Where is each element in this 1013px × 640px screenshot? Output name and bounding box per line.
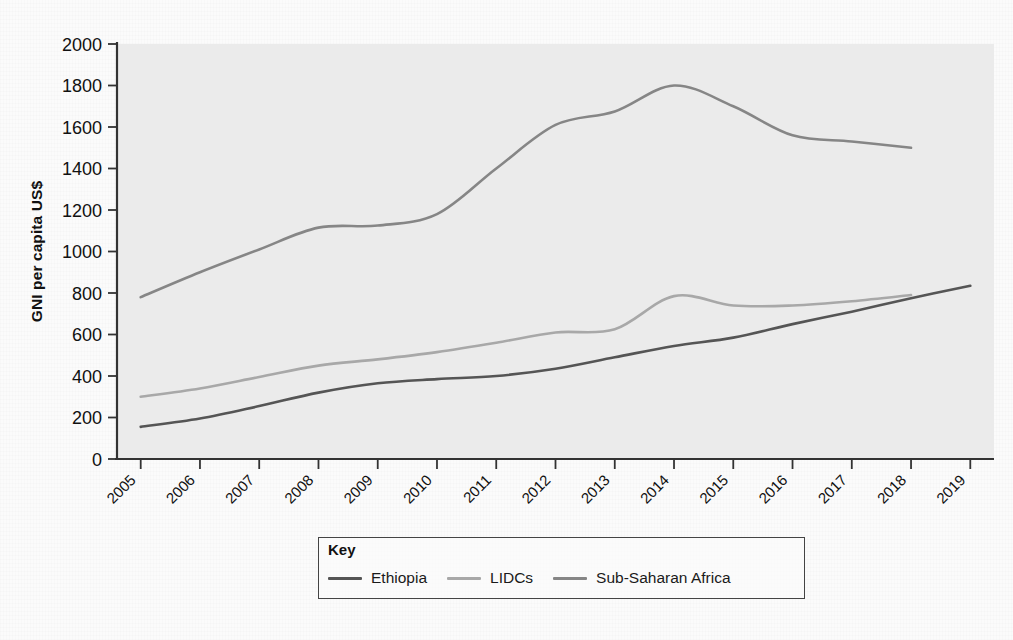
x-tick-label: 2018 — [874, 471, 910, 507]
x-tick-label: 2007 — [222, 471, 258, 507]
x-tick-label: 2008 — [281, 471, 317, 507]
plot-background — [117, 44, 994, 459]
x-tick-label: 2015 — [696, 471, 732, 507]
legend-swatch-line-icon — [447, 577, 481, 580]
legend-label: LIDCs — [490, 569, 533, 587]
x-tick-label: 2009 — [340, 471, 376, 507]
x-tick-label: 2016 — [755, 471, 791, 507]
legend-item-lidcs: LIDCs — [447, 569, 533, 587]
legend-item-ethiopia: Ethiopia — [328, 569, 427, 587]
x-tick-label: 2005 — [103, 471, 139, 507]
x-tick-label: 2019 — [933, 471, 969, 507]
legend-item-sub-saharan-africa: Sub-Saharan Africa — [553, 569, 730, 587]
x-tick-label: 2010 — [399, 471, 435, 507]
legend-label: Ethiopia — [371, 569, 427, 587]
x-axis-ticks: 2005200620072008200920102011201220132014… — [103, 459, 970, 507]
legend-title: Key — [328, 541, 356, 558]
legend-swatch-line-icon — [328, 577, 362, 580]
y-tick-label: 1600 — [62, 118, 102, 138]
x-tick-label: 2017 — [814, 471, 850, 507]
y-axis-title: GNI per capita US$ — [28, 181, 45, 323]
y-tick-label: 800 — [72, 284, 102, 304]
y-axis-label: GNI per capita US$ — [28, 181, 45, 323]
y-tick-label: 2000 — [62, 35, 102, 55]
y-axis-ticks: 0200400600800100012001400160018002000 — [62, 35, 117, 470]
legend-label: Sub-Saharan Africa — [596, 569, 730, 587]
y-tick-label: 600 — [72, 325, 102, 345]
y-tick-label: 1200 — [62, 201, 102, 221]
x-tick-label: 2012 — [518, 471, 554, 507]
x-tick-label: 2014 — [637, 471, 673, 507]
y-tick-label: 1800 — [62, 76, 102, 96]
y-tick-label: 0 — [92, 450, 102, 470]
y-tick-label: 1000 — [62, 242, 102, 262]
x-tick-label: 2011 — [460, 471, 495, 506]
y-tick-label: 1400 — [62, 159, 102, 179]
legend-items-row: EthiopiaLIDCsSub-Saharan Africa — [328, 564, 751, 592]
y-tick-label: 400 — [72, 367, 102, 387]
legend-swatch-line-icon — [553, 577, 587, 580]
chart-figure: 0200400600800100012001400160018002000 20… — [0, 0, 1013, 640]
x-tick-label: 2006 — [162, 471, 198, 507]
x-tick-label: 2013 — [577, 471, 613, 507]
y-tick-label: 200 — [72, 408, 102, 428]
legend-key-box: Key EthiopiaLIDCsSub-Saharan Africa — [318, 537, 805, 599]
